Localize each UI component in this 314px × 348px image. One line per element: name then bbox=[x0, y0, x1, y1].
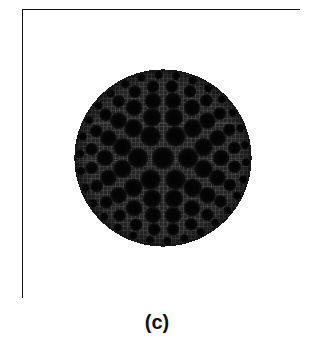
meshed-circular-fiber-cross-section bbox=[23, 10, 301, 299]
figure-frame-box bbox=[22, 9, 300, 298]
fiber-cladding-mesh bbox=[75, 70, 251, 246]
subfigure-caption: (c) bbox=[0, 312, 314, 332]
figure-root: (c) bbox=[0, 0, 314, 348]
